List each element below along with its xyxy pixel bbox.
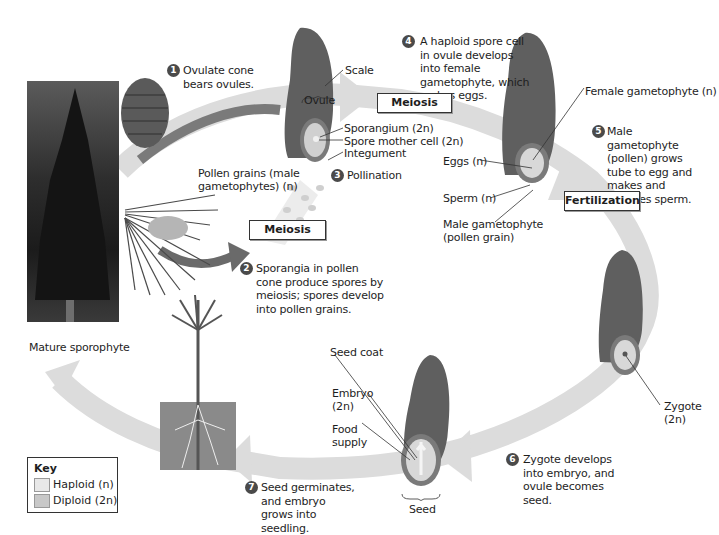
step-2-text: Sporangia in pollen cone produce spores … [256, 262, 386, 316]
meiosis-box-bottom: Meiosis [249, 220, 326, 240]
label-male-gametophyte-line2: (pollen grain) [443, 231, 514, 244]
label-seed: Seed [409, 503, 436, 516]
step-1-number: 1 [167, 64, 180, 77]
meiosis-box-top: Meiosis [377, 93, 452, 113]
key-diploid-label: Diploid (2n) [53, 494, 117, 507]
label-food-supply-line1: Food [332, 423, 358, 436]
label-embryo-line1: Embryo [332, 387, 373, 400]
label-male-gametophyte-line1: Male gametophyte [443, 218, 543, 231]
step-6-number: 6 [506, 453, 519, 466]
label-sporangium: Sporangium (2n) [344, 122, 434, 135]
label-zygote-line2: (2n) [664, 413, 686, 426]
label-sperm: Sperm (n) [443, 192, 496, 205]
step-7-number: 7 [245, 481, 258, 494]
pine-tree-icon [35, 88, 110, 300]
label-pollen-grains-line1: Pollen grains (male [198, 167, 300, 180]
fertilization-box: Fertilization [564, 191, 640, 211]
key-title: Key [34, 462, 57, 475]
label-pollen-grains-line2: gametophytes) (n) [198, 180, 297, 193]
label-embryo-line2: (2n) [332, 400, 354, 413]
label-eggs: Eggs (n) [443, 155, 487, 168]
diploid-swatch [34, 494, 50, 508]
label-mature-sporophyte: Mature sporophyte [29, 341, 130, 354]
step-5-number: 5 [592, 125, 605, 138]
label-zygote-line1: Zygote [664, 400, 702, 413]
label-scale: Scale [345, 64, 374, 77]
label-ovule: Ovule [304, 94, 335, 107]
step-3-text: Pollination [347, 169, 402, 182]
step-7-text: Seed germinates, and embryo grows into s… [261, 481, 356, 535]
step-6-text: Zygote develops into embryo, and ovule b… [523, 453, 633, 507]
legend-key: Key Haploid (n) Diploid (2n) [27, 457, 118, 513]
tree-trunk [66, 300, 74, 322]
label-integument: Integument [344, 147, 406, 160]
label-seed-coat: Seed coat [330, 346, 383, 359]
step-2-number: 2 [240, 262, 253, 275]
key-haploid-label: Haploid (n) [53, 478, 114, 491]
step-3-number: 3 [331, 169, 344, 182]
label-food-supply-line2: supply [332, 436, 367, 449]
step-4-number: 4 [402, 35, 415, 48]
label-female-gametophyte: Female gametophyte (n) [585, 85, 717, 98]
step-1-text: Ovulate cone bears ovules. [183, 64, 263, 91]
haploid-swatch [34, 478, 50, 492]
